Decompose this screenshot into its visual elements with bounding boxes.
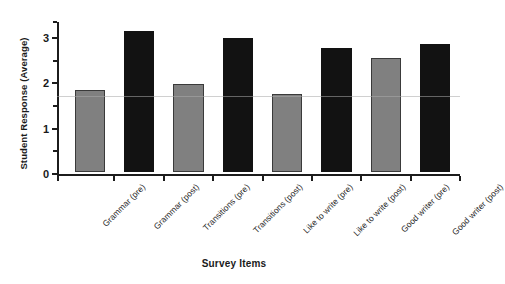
x-tick-origin — [57, 176, 59, 181]
plot-area: 0123 — [57, 22, 460, 174]
bar — [124, 31, 154, 172]
y-tick-minor — [53, 105, 57, 107]
x-tick-label: Good writer (post) — [450, 182, 505, 237]
bar — [420, 44, 450, 172]
x-tick-label: Like to write (pre) — [301, 182, 355, 236]
x-axis-title: Survey Items — [0, 258, 468, 269]
y-tick — [52, 82, 57, 84]
bar — [321, 48, 351, 172]
x-tick-label: Transitions (post) — [251, 182, 304, 235]
x-tick — [410, 176, 412, 181]
x-tick-label: Grammar (pre) — [101, 182, 148, 229]
x-tick — [113, 176, 115, 181]
x-axis-spine — [57, 174, 460, 176]
y-tick-label: 1 — [43, 123, 49, 134]
bar — [272, 94, 302, 172]
bar — [173, 84, 203, 172]
x-tick-label: Like to write (post) — [351, 182, 407, 238]
y-tick-minor — [53, 21, 57, 23]
x-tick — [459, 176, 461, 181]
bar — [371, 58, 401, 172]
y-axis-spine — [57, 22, 59, 175]
x-tick — [212, 176, 214, 181]
y-tick — [52, 173, 57, 175]
x-tick — [311, 176, 313, 181]
y-tick — [52, 37, 57, 39]
x-tick — [163, 176, 165, 181]
x-tick-label: Good writer (pre) — [399, 182, 452, 235]
y-tick-label: 3 — [43, 32, 49, 43]
y-axis-title: Student Response (Average) — [18, 19, 29, 189]
x-tick-label: Transitions (pre) — [201, 182, 252, 233]
y-tick-label: 0 — [43, 169, 49, 180]
y-tick-label: 2 — [43, 78, 49, 89]
bar — [223, 38, 253, 172]
y-tick-minor — [53, 60, 57, 62]
x-tick-label: Grammar (post) — [151, 182, 200, 231]
y-tick — [52, 128, 57, 130]
x-tick — [262, 176, 264, 181]
y-tick-minor — [53, 150, 57, 152]
bar — [75, 90, 105, 172]
x-tick — [360, 176, 362, 181]
